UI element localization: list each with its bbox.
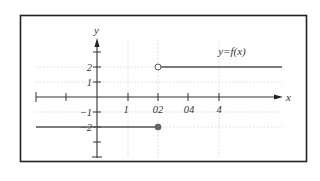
closed-endpoint-icon [155,124,161,130]
y-tick-label: 1 [87,77,92,88]
x-axis-arrow-icon [274,95,283,100]
y-axis-arrow-icon [95,38,100,47]
step-function-figure: x y 1 02 04 4 2 1 − [0,0,320,181]
x-axis: x [36,91,291,103]
x-axis-label: x [285,91,291,103]
open-endpoint-icon [155,64,161,70]
x-tick-label: 02 [153,104,164,115]
y-axis-label: y [93,24,99,36]
x-tick-label: 04 [184,104,195,115]
function-label: y=f(x) [217,45,246,58]
upper-piece [155,64,282,70]
y-tick-label: 2 [87,62,93,73]
x-tick-labels: 1 02 04 4 [123,104,222,115]
y-tick-label: −1 [80,107,92,118]
x-tick-label: 4 [216,104,222,115]
y-axis: y [92,24,102,158]
lower-piece [36,124,161,130]
x-tick-label: 1 [123,104,128,115]
grid-lines [36,40,282,158]
figure-frame [21,16,307,162]
